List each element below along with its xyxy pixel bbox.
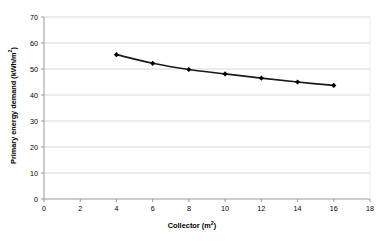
series-marker xyxy=(259,76,264,81)
y-tick-label: 20 xyxy=(30,143,38,152)
series-marker xyxy=(295,79,300,84)
series-marker xyxy=(223,71,228,76)
series-marker xyxy=(150,61,155,66)
y-axis-label: Primary energy demand (kWh/m2) xyxy=(9,47,18,164)
y-tick-label: 40 xyxy=(30,91,38,100)
gridlines-group xyxy=(44,17,370,173)
chart-container: · ··· ·· 010203040506070 024681012141618… xyxy=(0,0,384,241)
axis-lines-group xyxy=(44,17,370,199)
y-tick-label: 70 xyxy=(30,13,38,22)
x-tick-label: 0 xyxy=(42,204,46,213)
y-tick-label: 0 xyxy=(34,195,38,204)
x-tick-label: 2 xyxy=(78,204,82,213)
series-line xyxy=(116,55,333,86)
y-tick-label: 60 xyxy=(30,39,38,48)
y-axis-ticks-group: 010203040506070 xyxy=(30,13,44,204)
y-tick-label: 50 xyxy=(30,65,38,74)
y-tick-label: 30 xyxy=(30,117,38,126)
x-tick-label: 14 xyxy=(294,204,302,213)
x-tick-label: 12 xyxy=(257,204,265,213)
x-tick-label: 6 xyxy=(151,204,155,213)
series-marker xyxy=(331,83,336,88)
x-axis-ticks-group: 024681012141618 xyxy=(42,199,374,213)
data-series-line-group xyxy=(116,55,333,86)
series-marker xyxy=(186,67,191,72)
x-tick-label: 18 xyxy=(366,204,374,213)
x-tick-label: 4 xyxy=(114,204,118,213)
x-tick-label: 16 xyxy=(330,204,338,213)
x-axis-label: Collector (m2) xyxy=(0,221,384,230)
y-tick-label: 10 xyxy=(30,169,38,178)
x-tick-label: 10 xyxy=(221,204,229,213)
x-tick-label: 8 xyxy=(187,204,191,213)
chart-plot-area: 010203040506070 024681012141618 xyxy=(0,0,384,241)
series-marker xyxy=(114,52,119,57)
y-axis-label-wrapper: Primary energy demand (kWh/m2) xyxy=(2,0,24,210)
